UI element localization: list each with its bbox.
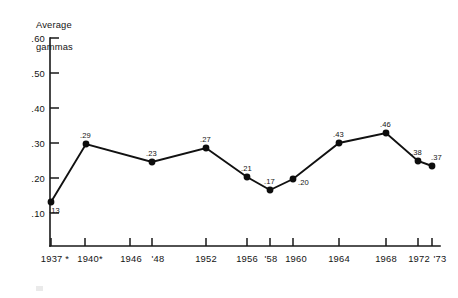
data-point-label-023: .23 xyxy=(146,149,157,158)
data-point-marker xyxy=(290,176,297,183)
data-point-label-020: .20 xyxy=(298,178,309,187)
x-tick-label-1948: '48 xyxy=(152,253,165,264)
y-tick-label-050: .50 xyxy=(25,68,45,79)
y-tick-label-040: .40 xyxy=(25,103,45,114)
y-tick-label-060: .60 xyxy=(25,33,45,44)
data-point-label-027: .27 xyxy=(200,135,211,144)
data-point-marker xyxy=(83,141,90,148)
data-point-marker xyxy=(429,163,436,170)
x-tick-label-1964: 1964 xyxy=(328,253,350,264)
x-axis-ticks xyxy=(51,238,432,246)
x-tick-label-1960: 1960 xyxy=(285,253,307,264)
data-point-label-029: .29 xyxy=(80,131,91,140)
x-tick-label-1968: 1968 xyxy=(375,253,397,264)
x-tick-label-1958: '58 xyxy=(265,253,278,264)
data-point-marker xyxy=(149,159,156,166)
x-tick-label-1946: 1946 xyxy=(120,253,142,264)
data-point-marker xyxy=(244,174,251,181)
scan-artifact xyxy=(36,286,43,291)
data-point-marker xyxy=(203,145,210,152)
data-point-label-037: .37 xyxy=(431,153,442,162)
x-tick-label-1937: 1937 * xyxy=(41,253,69,264)
data-point-label-043: .43 xyxy=(333,130,344,139)
data-point-marker xyxy=(267,187,274,194)
y-tick-label-030: .30 xyxy=(25,138,45,149)
x-tick-label-1956: 1956 xyxy=(236,253,258,264)
y-tick-label-010: .10 xyxy=(25,208,45,219)
data-point-marker xyxy=(336,140,343,147)
data-point-label-021: .21 xyxy=(241,164,252,173)
data-point-label-017: .17 xyxy=(264,177,275,186)
y-tick-label-020: .20 xyxy=(25,173,45,184)
x-tick-label-1972: 1972 xyxy=(408,253,430,264)
data-point-label-038: .38 xyxy=(411,148,422,157)
x-tick-label-1952: 1952 xyxy=(195,253,217,264)
data-point-marker xyxy=(415,158,422,165)
chart-container: Average gammas xyxy=(0,0,458,298)
data-point-marker xyxy=(48,199,55,206)
data-point-marker xyxy=(383,130,390,137)
x-tick-label-1940: 1940* xyxy=(77,253,103,264)
y-axis-ticks xyxy=(50,38,59,213)
data-point-label-046: .46 xyxy=(380,120,391,129)
x-tick-label-1973: '73 xyxy=(434,253,447,264)
data-point-label-013: .13 xyxy=(49,206,60,215)
